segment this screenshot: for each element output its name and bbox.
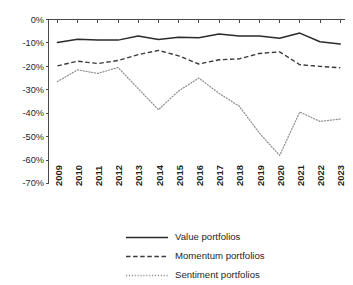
y-axis: 0% -10% -20% -30% -40% -50% -60% -70% (23, 15, 44, 188)
x-axis-labels: 2009 2010 2011 2012 2013 2014 2015 2016 … (53, 164, 347, 186)
y-tick-label: -50% (23, 132, 44, 142)
chart-figure: 0% -10% -20% -30% -40% -50% -60% -70% (0, 0, 353, 285)
series-line-momentum-portfolios (57, 50, 340, 67)
x-tick-label: 2015 (174, 165, 185, 186)
x-tick-label: 2011 (93, 166, 104, 186)
y-tick-label: 0% (31, 15, 44, 25)
x-axis-ticks (57, 20, 340, 24)
y-tick-label: -20% (23, 62, 44, 72)
x-tick-label: 2010 (73, 165, 84, 186)
x-tick-label: 2009 (53, 165, 64, 186)
series-line-value-portfolios (57, 33, 340, 44)
x-tick-label: 2019 (255, 165, 266, 186)
x-tick-label: 2021 (295, 165, 306, 186)
legend-label-sentiment-portfolios: Sentiment portfolios (175, 269, 260, 280)
series-line-sentiment-portfolios (57, 68, 340, 156)
y-tick-label: -40% (23, 108, 44, 118)
y-tick-label: -10% (23, 38, 44, 48)
x-tick-label: 2020 (275, 165, 286, 186)
x-tick-label: 2023 (335, 165, 346, 186)
y-tick-label: -70% (23, 178, 44, 188)
x-tick-label: 2014 (154, 164, 165, 186)
x-tick-label: 2022 (315, 165, 326, 186)
y-tick-label: -30% (23, 85, 44, 95)
y-tick-label: -60% (23, 155, 44, 165)
x-tick-label: 2016 (194, 165, 205, 186)
chart-legend: Value portfolios Momentum portfolios Sen… (126, 231, 265, 280)
x-tick-label: 2012 (113, 165, 124, 186)
legend-label-momentum-portfolios: Momentum portfolios (175, 250, 265, 261)
x-tick-label: 2017 (214, 165, 225, 186)
x-tick-label: 2013 (133, 165, 144, 186)
x-tick-label: 2018 (234, 165, 245, 186)
line-chart: 0% -10% -20% -30% -40% -50% -60% -70% (0, 0, 353, 285)
legend-label-value-portfolios: Value portfolios (175, 231, 241, 242)
